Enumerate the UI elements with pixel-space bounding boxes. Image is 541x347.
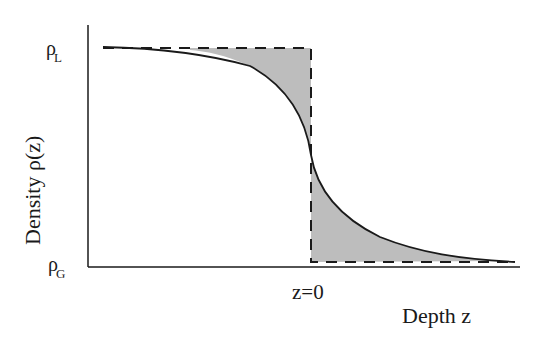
y-axis-label: Density ρ(z) <box>20 136 46 245</box>
rho-liquid-label: ρL <box>46 38 64 58</box>
z-zero-label: z=0 <box>292 282 324 303</box>
density-profile-diagram <box>0 0 541 347</box>
shaded-area-left <box>190 48 311 155</box>
rho-gas-label: ρG <box>48 254 67 274</box>
subscript-l: L <box>54 50 62 65</box>
subscript-g: G <box>56 266 65 281</box>
x-axis-label: Depth z <box>402 305 471 327</box>
